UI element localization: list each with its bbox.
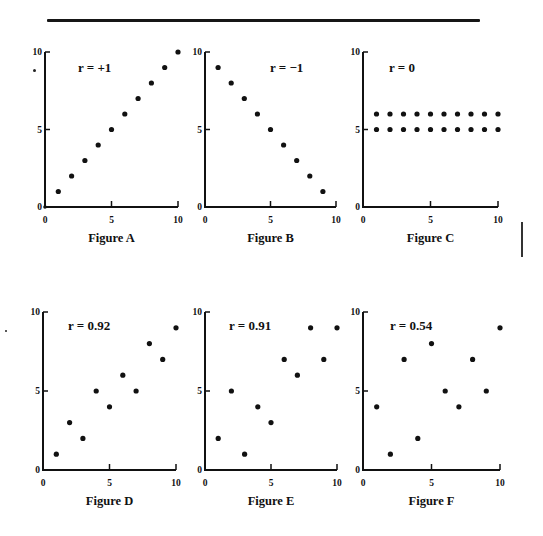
x-tick-label: 0 [361, 478, 366, 488]
correlation-label: r = 0.54 [390, 318, 432, 334]
data-point [456, 404, 461, 409]
data-point [429, 341, 434, 346]
data-point [443, 388, 448, 393]
y-tick-label: 0 [355, 465, 360, 475]
data-point [388, 452, 393, 457]
stray-dot [33, 69, 36, 72]
data-point [484, 388, 489, 393]
figure-caption: Figure F [409, 494, 455, 509]
x-tick-label: 10 [495, 478, 505, 488]
data-point [415, 436, 420, 441]
data-point [470, 357, 475, 362]
x-tick-label: 5 [429, 478, 434, 488]
y-tick-label: 5 [355, 386, 360, 396]
y-tick-label: 10 [351, 307, 361, 317]
data-point [402, 357, 407, 362]
margin-mark [521, 222, 523, 257]
stray-dot [5, 330, 7, 332]
plot-area: 05100510 [0, 0, 543, 536]
data-point [374, 404, 379, 409]
data-point [497, 325, 502, 330]
